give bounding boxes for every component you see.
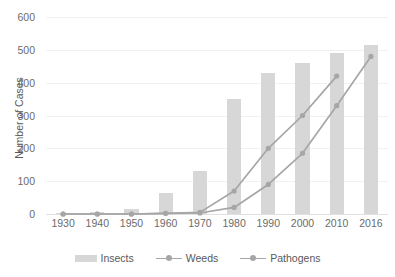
x-axis-tick-label: 2016 (359, 217, 382, 229)
marker-pathogens (163, 211, 168, 216)
marker-weeds (334, 74, 339, 79)
marker-weeds (300, 113, 305, 118)
legend-item-pathogens[interactable]: Pathogens (240, 252, 320, 264)
y-axis-tick-label: 300 (0, 110, 35, 122)
line-series-layer (46, 17, 388, 214)
bar-swatch-icon (75, 255, 97, 262)
marker-pathogens (334, 103, 339, 108)
y-axis-tick-label: 200 (0, 142, 35, 154)
legend-item-weeds[interactable]: Weeds (156, 252, 219, 264)
y-axis-tick-label: 400 (0, 77, 35, 89)
x-axis-tick-label: 1940 (86, 217, 109, 229)
legend-item-insects[interactable]: Insects (75, 252, 134, 264)
line-pathogens (63, 56, 371, 214)
x-axis-tick-label: 2000 (291, 217, 314, 229)
marker-pathogens (232, 205, 237, 210)
marker-pathogens (197, 210, 202, 215)
x-axis-tick-label: 1930 (51, 217, 74, 229)
marker-pathogens (300, 151, 305, 156)
x-axis-tick-label: 1980 (222, 217, 245, 229)
x-axis-tick-label: 2010 (325, 217, 348, 229)
line-weeds (63, 76, 337, 214)
chart-container: Number of Cases 010020030040050060019301… (0, 0, 395, 277)
y-axis-tick-label: 600 (0, 11, 35, 23)
y-axis-tick-label: 500 (0, 44, 35, 56)
marker-pathogens (95, 211, 100, 216)
marker-pathogens (129, 211, 134, 216)
x-axis-tick-label: 1960 (154, 217, 177, 229)
y-axis-tick-label: 0 (0, 208, 35, 220)
line-marker-icon (156, 254, 182, 262)
marker-pathogens (266, 182, 271, 187)
x-axis-tick-label: 1990 (257, 217, 280, 229)
x-axis-tick-label: 1950 (120, 217, 143, 229)
marker-pathogens (368, 54, 373, 59)
marker-weeds (232, 188, 237, 193)
marker-weeds (266, 146, 271, 151)
x-axis-tick-label: 1970 (188, 217, 211, 229)
legend-label: Insects (101, 252, 134, 264)
plot-area: 0100200300400500600193019401950196019701… (46, 17, 388, 214)
marker-pathogens (61, 211, 66, 216)
legend-label: Pathogens (270, 252, 320, 264)
legend-label: Weeds (186, 252, 219, 264)
y-axis-tick-label: 100 (0, 175, 35, 187)
chart-legend: InsectsWeedsPathogens (0, 252, 395, 264)
line-marker-icon (240, 254, 266, 262)
